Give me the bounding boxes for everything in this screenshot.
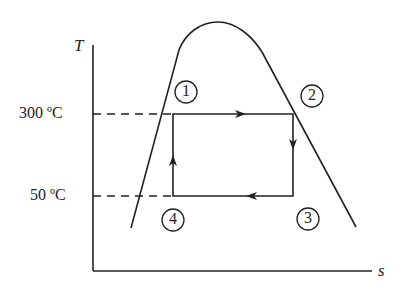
t-s-diagram: T s 300 ºC 50 ºC 1 2 3 4: [0, 0, 411, 298]
diagram-canvas: [0, 0, 411, 298]
state-label-1: 1: [174, 82, 198, 100]
state-label-4: 4: [161, 210, 185, 228]
isotherm-label-300: 300 ºC: [19, 104, 63, 122]
cycle-path: [173, 114, 293, 196]
state-label-2: 2: [300, 86, 324, 104]
t-axis-label: T: [74, 36, 83, 56]
isotherm-label-50: 50 ºC: [30, 186, 66, 204]
s-axis-label: s: [378, 261, 385, 281]
state-label-3: 3: [296, 209, 320, 227]
saturation-dome: [131, 22, 356, 228]
